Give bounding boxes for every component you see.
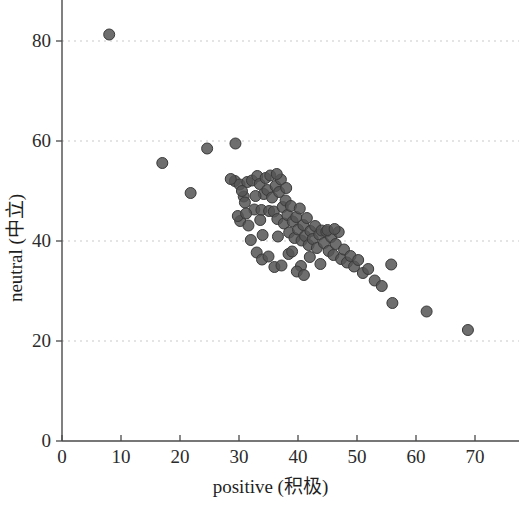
y-tick-label-60: 60 xyxy=(32,130,51,151)
data-point xyxy=(241,208,252,219)
y-tick-label-20: 20 xyxy=(32,330,51,351)
chart-canvas: 010203040506070 020406080 positive (积极) … xyxy=(0,0,519,515)
x-axis-ticks: 010203040506070 xyxy=(57,435,484,467)
data-point xyxy=(236,186,247,197)
data-point xyxy=(294,203,305,214)
x-tick-label-60: 60 xyxy=(407,446,426,467)
data-point xyxy=(276,260,287,271)
data-point xyxy=(363,264,374,275)
data-point xyxy=(376,281,387,292)
data-point xyxy=(257,230,268,241)
data-points xyxy=(104,29,474,336)
x-tick-label-10: 10 xyxy=(112,446,131,467)
data-point xyxy=(298,270,309,281)
data-point xyxy=(353,255,364,266)
data-point xyxy=(250,191,261,202)
data-point xyxy=(281,183,292,194)
scatter-chart: 010203040506070 020406080 positive (积极) … xyxy=(0,0,519,515)
y-tick-label-40: 40 xyxy=(32,230,51,251)
x-tick-label-50: 50 xyxy=(348,446,367,467)
data-point xyxy=(243,220,254,231)
data-point xyxy=(104,29,115,40)
data-point xyxy=(421,306,432,317)
data-point xyxy=(263,251,274,262)
data-point xyxy=(245,235,256,246)
x-tick-label-40: 40 xyxy=(289,446,308,467)
data-point xyxy=(315,259,326,270)
x-axis-title: positive (积极) xyxy=(213,476,329,498)
x-tick-label-20: 20 xyxy=(171,446,190,467)
data-point xyxy=(239,197,250,208)
data-point xyxy=(271,169,282,180)
data-point xyxy=(287,246,298,257)
y-tick-label-80: 80 xyxy=(32,30,51,51)
x-tick-label-0: 0 xyxy=(57,446,67,467)
x-tick-label-70: 70 xyxy=(466,446,485,467)
data-point xyxy=(329,224,340,235)
y-axis-title: neutral (中立) xyxy=(5,194,27,302)
data-point xyxy=(255,215,266,226)
data-point xyxy=(301,213,312,224)
data-point xyxy=(462,325,473,336)
data-point xyxy=(202,143,213,154)
data-point xyxy=(304,252,315,263)
data-point xyxy=(386,259,397,270)
data-point xyxy=(225,174,236,185)
data-point xyxy=(157,158,168,169)
data-point xyxy=(230,138,241,149)
y-tick-label-0: 0 xyxy=(42,430,52,451)
y-axis-ticks: 020406080 xyxy=(32,30,62,451)
data-point xyxy=(272,231,283,242)
data-point xyxy=(387,298,398,309)
x-tick-label-30: 30 xyxy=(230,446,249,467)
data-point xyxy=(185,188,196,199)
